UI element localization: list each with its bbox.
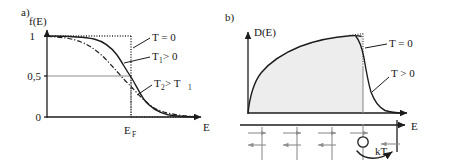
panel-a-leader-T1 bbox=[124, 57, 150, 63]
panel-a-ef-base: E bbox=[124, 124, 131, 136]
panel-a-ann-t2-rest-sub: 1 bbox=[188, 83, 192, 92]
panel-b-label: b) bbox=[225, 11, 235, 24]
panel-b-group bbox=[248, 32, 407, 114]
panel-a-annotation-t-one: T 1 > 0 bbox=[152, 50, 178, 65]
hole-circle bbox=[358, 137, 368, 147]
panel-a-ytick-label-half: 0,5 bbox=[27, 70, 41, 82]
kt-label: kT bbox=[375, 145, 388, 157]
panel-b-leader-Tzero bbox=[365, 44, 387, 48]
panel-a-ann-t2-base: T bbox=[154, 77, 161, 89]
panel-b-occupied-area bbox=[248, 36, 363, 114]
physics-figure-canvas: a) f(E) 1 0,5 0 E F E T = 0 T 1 > 0 T 2 … bbox=[0, 0, 449, 166]
panel-b-annotation-t-pos: T > 0 bbox=[391, 67, 415, 79]
panel-a-leader-Tzero bbox=[133, 38, 150, 48]
panel-a-y-axis-label: f(E) bbox=[29, 15, 47, 28]
panel-b-annotation-t-zero: T = 0 bbox=[389, 37, 413, 49]
panel-a-x-axis-label: E bbox=[203, 121, 210, 133]
panel-a-ann-t2-rest: > T bbox=[165, 77, 181, 89]
panel-a-leader-T2 bbox=[137, 85, 152, 95]
panel-a-ytick-label-1: 1 bbox=[30, 30, 36, 42]
panel-a-annotation-t-two: T 2 > T 1 bbox=[154, 77, 192, 92]
panel-a-annotation-t-zero: T = 0 bbox=[152, 31, 176, 43]
panel-b-leader-Tpos bbox=[372, 77, 389, 92]
panel-a-ann-t1-base: T bbox=[152, 50, 159, 62]
panel-a-ytick-label-0: 0 bbox=[36, 111, 42, 123]
panel-b-x-axis-label: E bbox=[411, 120, 418, 132]
panel-a-ef-sub: F bbox=[132, 130, 136, 139]
panel-a-ef-label: E F bbox=[124, 124, 136, 139]
panel-b-y-axis-label: D(E) bbox=[254, 26, 276, 39]
figure-root: a) f(E) 1 0,5 0 E F E T = 0 T 1 > 0 T 2 … bbox=[0, 0, 449, 166]
panel-a-ann-t1-rest: > 0 bbox=[163, 50, 178, 62]
panel-a-group bbox=[44, 30, 201, 118]
